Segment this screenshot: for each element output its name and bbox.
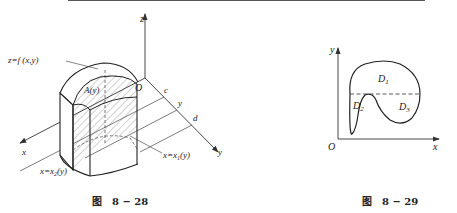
tick-y-label: y [177, 98, 182, 108]
figure-8-29: y x O D1 D2 D3 图8 − 29 [328, 44, 439, 207]
y-axis [145, 78, 218, 152]
region-d3-label: D3 [398, 101, 410, 114]
curve-x2-label: x=x2(y) [39, 166, 67, 177]
region-boundary [350, 61, 420, 134]
y-axis-label-29: y [329, 44, 335, 55]
line-at-d [140, 125, 192, 152]
origin-label-29: O [328, 141, 335, 152]
x-axis-label-29: x [432, 141, 438, 152]
surface-label: z=f (x,y) [7, 55, 39, 65]
tick-c-label: c [164, 85, 168, 95]
figure-8-28: z O y x c y d [7, 13, 222, 207]
cross-section-label: A(y) [83, 85, 100, 95]
curve-x1-leader [130, 136, 162, 153]
x-axis-label: x [21, 147, 26, 157]
figure-canvas: z O y x c y d [0, 0, 457, 213]
tick-d-label: d [193, 113, 198, 123]
curve-x1-label: x=x1(y) [162, 150, 190, 161]
z-axis-label: z [139, 13, 144, 24]
region-d1-label: D1 [377, 73, 389, 86]
caption-8-28: 图8 − 28 [92, 196, 148, 207]
y-axis-label: y [217, 147, 222, 157]
caption-8-29: 图8 − 29 [362, 196, 418, 207]
